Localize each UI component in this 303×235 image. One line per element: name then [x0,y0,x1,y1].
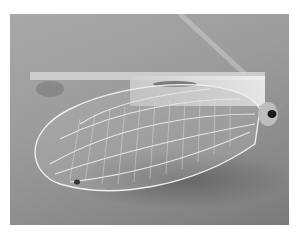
lacewing-illustration [10,14,289,225]
shadow-spot [36,81,64,97]
wing-spot [74,180,80,185]
insect-eye [268,110,277,118]
light-streak [180,14,245,74]
antenna [275,100,289,109]
lacewing-photo [10,14,289,225]
